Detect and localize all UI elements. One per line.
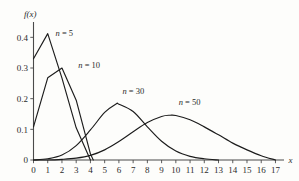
x-tick-label-16: 16 [257, 165, 267, 175]
y-axis-ticks: 00.10.20.30.4 [17, 33, 34, 166]
y-tick-label-0: 0 [24, 155, 29, 165]
x-axis-ticks: 01234567891011121314151617 [31, 160, 280, 175]
series-label-n-5: n = 5 [56, 28, 74, 38]
series-curves [34, 34, 276, 160]
x-tick-label-6: 6 [117, 165, 122, 175]
x-axis-title: x [288, 155, 293, 165]
curve-n-30 [34, 103, 219, 160]
y-tick-label-0.4: 0.4 [17, 33, 29, 43]
x-tick-label-3: 3 [74, 165, 79, 175]
x-tick-label-8: 8 [145, 165, 150, 175]
x-tick-label-2: 2 [60, 165, 65, 175]
series-label-n-10: n = 10 [78, 60, 100, 70]
x-tick-label-7: 7 [131, 165, 136, 175]
y-tick-label-0.2: 0.2 [17, 94, 28, 104]
plot-area: 01234567891011121314151617 00.10.20.30.4… [0, 0, 299, 181]
series-label-n-50: n = 50 [179, 97, 201, 107]
x-tick-label-12: 12 [200, 165, 209, 175]
x-tick-label-5: 5 [102, 165, 107, 175]
x-tick-label-14: 14 [228, 165, 238, 175]
series-annotations: n = 5n = 10n = 30n = 50 [56, 28, 201, 108]
series-label-n-30: n = 30 [122, 86, 144, 96]
x-tick-label-10: 10 [171, 165, 181, 175]
chi-square-density-figure: 01234567891011121314151617 00.10.20.30.4… [0, 0, 299, 181]
curve-n-50 [34, 115, 276, 160]
y-tick-label-0.1: 0.1 [17, 125, 28, 135]
y-tick-label-0.3: 0.3 [17, 63, 29, 73]
x-tick-label-1: 1 [45, 165, 50, 175]
x-tick-label-13: 13 [214, 165, 224, 175]
x-tick-label-15: 15 [242, 165, 252, 175]
y-axis-title: f(x) [24, 9, 37, 19]
x-tick-label-9: 9 [159, 165, 164, 175]
x-tick-label-0: 0 [31, 165, 36, 175]
x-tick-label-4: 4 [88, 165, 93, 175]
x-tick-label-11: 11 [186, 165, 195, 175]
x-tick-label-17: 17 [271, 165, 281, 175]
